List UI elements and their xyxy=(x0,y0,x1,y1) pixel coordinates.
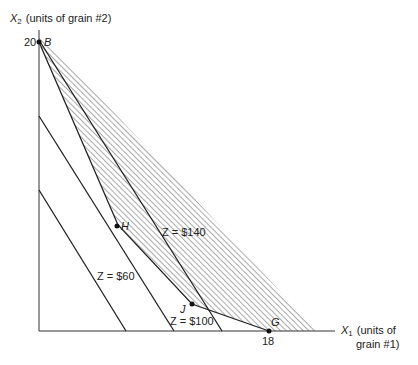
point-G-label: G xyxy=(271,316,280,328)
iso-label-140: Z = $140 xyxy=(162,226,206,238)
point-H-marker xyxy=(115,224,120,229)
y-axis-title: X2(units of grain #2) xyxy=(9,12,111,26)
point-G-marker xyxy=(267,329,272,334)
point-J-label: J xyxy=(179,303,186,315)
x-axis-title-line1: X1(units of xyxy=(340,324,397,338)
y-tick-20: 20 xyxy=(24,36,36,48)
iso-label-100: Z = $100 xyxy=(170,315,214,327)
point-J-marker xyxy=(190,302,195,307)
x-axis-title-line2: grain #1) xyxy=(356,338,399,350)
point-H-label: H xyxy=(121,220,129,232)
x-tick-18: 18 xyxy=(262,335,274,347)
point-B-marker xyxy=(37,40,42,45)
point-B-label: B xyxy=(44,36,51,48)
iso-label-60: Z = $60 xyxy=(97,270,135,282)
lp-diagram: B H J G 20 18 Z = $140 Z = $100 Z = $60 … xyxy=(0,0,418,365)
iso-line-140 xyxy=(39,40,222,331)
